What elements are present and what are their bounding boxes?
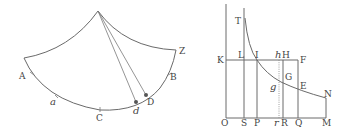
label-D: D <box>147 97 154 107</box>
label-d: d <box>133 105 139 116</box>
label-Q: Q <box>295 118 302 128</box>
diagram-canvas: A a C d D B Z <box>0 0 352 133</box>
label-L: L <box>238 50 244 60</box>
label-r: r <box>274 117 280 128</box>
label-G: G <box>285 72 292 82</box>
label-g: g <box>270 81 276 92</box>
hyperbola-figure: T K L I h H F G g E N O S P r R Q M <box>217 4 332 128</box>
label-M: M <box>322 118 331 128</box>
label-I: I <box>255 50 259 60</box>
label-H: H <box>282 50 290 60</box>
label-B: B <box>170 72 177 82</box>
string-to-d <box>98 11 136 102</box>
label-K: K <box>217 55 224 65</box>
label-Z: Z <box>179 46 185 56</box>
label-F: F <box>300 55 306 65</box>
label-P: P <box>254 118 260 128</box>
arc-apex-to-left <box>24 11 98 58</box>
label-C: C <box>96 113 103 123</box>
label-h: h <box>275 49 281 60</box>
string-to-D <box>98 11 146 95</box>
arc-apex-to-z <box>98 11 176 50</box>
label-E: E <box>300 81 307 91</box>
label-O: O <box>221 118 228 128</box>
cycloid-figure: A a C d D B Z <box>18 11 185 123</box>
label-a: a <box>50 96 56 107</box>
figure-container: A a C d D B Z <box>0 0 352 133</box>
label-S: S <box>241 118 247 128</box>
label-T: T <box>235 16 241 26</box>
label-N: N <box>324 89 332 99</box>
point-d <box>134 100 138 104</box>
label-A: A <box>18 71 26 81</box>
label-R: R <box>281 118 288 128</box>
